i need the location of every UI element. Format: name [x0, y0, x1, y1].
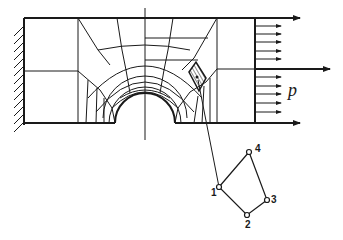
node-label-2: 2: [245, 220, 251, 230]
node-label-1: 1: [211, 188, 217, 198]
magnified-element: [217, 150, 270, 218]
leader-line: [198, 80, 219, 187]
node-1: [217, 185, 222, 190]
load-label-p: p: [288, 81, 297, 99]
node-label-3: 3: [271, 195, 277, 205]
node-2: [245, 213, 250, 218]
fixed-support-hatching: [14, 18, 24, 132]
node-label-4: 4: [255, 144, 261, 154]
node-4: [247, 150, 252, 155]
node-3: [265, 198, 270, 203]
fem-mesh-diagram: [0, 0, 343, 240]
mesh-lines: [24, 8, 255, 140]
highlighted-element: [189, 62, 206, 91]
